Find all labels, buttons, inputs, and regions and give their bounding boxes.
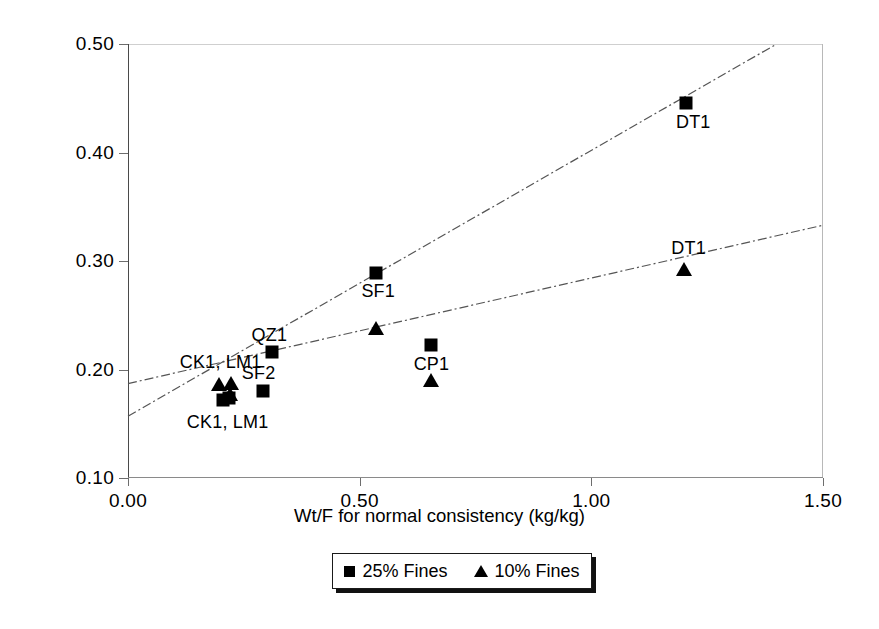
x-axis-tick [591, 478, 592, 486]
x-axis-tick [128, 478, 129, 486]
data-point-triangle [676, 262, 692, 276]
legend-label: 10% Fines [495, 561, 580, 582]
point-annotation: QZ1 [252, 324, 288, 345]
chart-legend: 25% Fines10% Fines [332, 553, 592, 589]
data-point-square [425, 338, 438, 351]
square-marker-icon [344, 566, 355, 577]
data-point-square [265, 346, 278, 359]
scatter-chart-figure: Wt/(F+C) for normal consistency (kg/kg) … [0, 0, 879, 629]
data-point-triangle [368, 321, 384, 335]
triangle-marker-icon [474, 565, 488, 577]
point-annotation: DT1 [676, 112, 711, 133]
y-axis-tick-label: 0.40 [44, 142, 114, 164]
x-axis-title: Wt/F for normal consistency (kg/kg) [0, 505, 879, 527]
y-axis-tick [119, 261, 128, 262]
point-annotation: DT1 [671, 237, 706, 258]
point-annotation: CP1 [414, 354, 450, 375]
y-axis-tick-label: 0.20 [44, 359, 114, 381]
data-point-square [369, 266, 382, 279]
y-axis-tick [119, 478, 128, 479]
y-axis-tick [119, 44, 128, 45]
y-axis-tick [119, 370, 128, 371]
point-annotation: CK1, LM1 [187, 411, 269, 432]
data-point-square [680, 96, 693, 109]
point-annotation: SF2 [242, 362, 276, 383]
legend-entry: 25% Fines [344, 561, 447, 582]
plot-area: QZ1CK1, LM1SF2CK1, LM1SF1CP1DT1DT1 [128, 44, 823, 478]
data-point-triangle [222, 387, 238, 401]
data-point-square [257, 385, 270, 398]
legend-entry: 10% Fines [474, 561, 580, 582]
y-axis-tick [119, 153, 128, 154]
y-axis-tick-label: 0.50 [44, 33, 114, 55]
y-axis-tick-label: 0.10 [44, 467, 114, 489]
x-axis-tick [823, 478, 824, 486]
legend-label: 25% Fines [362, 561, 447, 582]
data-point-triangle [423, 373, 439, 387]
point-annotation: SF1 [361, 281, 395, 302]
y-axis-tick-label: 0.30 [44, 250, 114, 272]
x-axis-tick [360, 478, 361, 486]
